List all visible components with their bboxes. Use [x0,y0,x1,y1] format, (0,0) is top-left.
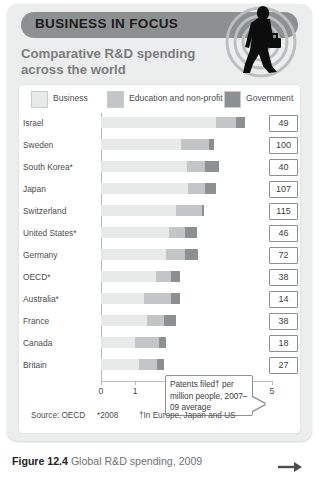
source-label: Source: OECD [31,411,85,420]
bar-segment-government [164,315,176,326]
bar-segment-business [101,161,187,172]
bar-segment-government [159,337,166,348]
bar-segment-education [187,161,206,172]
bar-segment-government [205,183,215,194]
bar-segment-business [101,205,176,216]
business-in-focus-card: BUSINESS IN FOCUS Comparative R&D spendi… [7,4,312,441]
chart-panel: Business Education and non-profit Govern… [19,85,300,433]
figure-number: Figure 12.4 [12,455,68,467]
patent-value-box: 38 [269,269,298,286]
bar-row [101,249,272,260]
bar-row [101,117,272,128]
banner-title: BUSINESS IN FOCUS [35,16,178,31]
patent-value-box: 40 [269,159,298,176]
category-label: Germany [23,250,99,260]
bar-segment-business [101,359,139,370]
legend-swatch-government [224,91,241,108]
category-label: Israel [23,118,99,128]
bar-segment-government [157,359,164,370]
category-label: Australia* [23,294,99,304]
bar-row [101,337,272,348]
patent-value-box: 72 [269,247,298,264]
patent-value-box: 38 [269,313,298,330]
bar-segment-education [216,117,237,128]
bar-segment-government [205,161,219,172]
patent-value-box: 107 [269,181,298,198]
bar-segment-business [101,117,216,128]
bar-segment-education [169,227,184,238]
x-axis-tick [135,381,136,385]
x-axis-tick-label: 0 [94,386,108,396]
bar-segment-business [101,249,166,260]
bar-segment-education [144,293,171,304]
bar-row [101,161,272,172]
bar-segment-education [176,205,202,216]
patent-value-box: 46 [269,225,298,242]
bar-segment-business [101,139,181,150]
bar-segment-government [171,293,180,304]
bar-segment-government [185,249,199,260]
category-label: Sweden [23,140,99,150]
bar-segment-education [156,271,171,282]
bar-segment-education [135,337,159,348]
x-axis-tick [101,381,102,385]
bar-segment-business [101,271,156,282]
category-label: Japan [23,184,99,194]
chart-subtitle: Comparative R&D spending across the worl… [21,46,236,78]
patent-value-box: 49 [269,115,298,132]
category-label: South Korea* [23,162,99,172]
patent-value-box: 14 [269,291,298,308]
legend-label-business: Business [53,93,88,103]
bar-segment-government [171,271,180,282]
x-axis-tick-label: 1 [128,386,142,396]
bar-row [101,359,272,370]
figure-caption-text: Global R&D spending, 2009 [68,455,202,467]
legend-label-education: Education and non-profit [129,93,223,103]
bar-segment-government [236,117,245,128]
bar-row [101,139,272,150]
bar-segment-education [147,315,164,326]
legend-label-government: Government [246,93,293,103]
x-axis-tick [272,381,273,385]
source-line: Source: OECD *2008 †In Europe, Japan and… [19,411,300,425]
callout-box: Patents filed† per million people, 2007–… [165,375,253,416]
category-label: United States* [23,228,99,238]
bar-row [101,315,272,326]
category-label: Britain [23,360,99,370]
bar-segment-business [101,227,169,238]
bar-row [101,293,272,304]
category-label: OECD* [23,272,99,282]
bar-segment-education [188,183,205,194]
next-arrow-icon[interactable] [277,459,303,477]
legend-swatch-education [107,91,124,108]
chart-legend: Business Education and non-profit Govern… [19,88,300,112]
bar-row [101,183,272,194]
bar-row [101,271,272,282]
bar-row [101,227,272,238]
bar-row [101,205,272,216]
bar-chart-plot: Israel49Sweden100South Korea*40Japan107S… [19,113,300,405]
bar-segment-government [202,205,204,216]
category-label: Switzerland [23,206,99,216]
patent-value-box: 27 [269,357,298,374]
patent-value-box: 18 [269,335,298,352]
figure-caption: Figure 12.4 Global R&D spending, 2009 [12,455,312,467]
category-label: Canada [23,338,99,348]
legend-swatch-business [31,91,48,108]
bar-segment-government [209,139,214,150]
category-label: France [23,316,99,326]
source-note-star: *2008 [97,411,118,420]
callout-tail [252,397,265,411]
patent-value-box: 115 [269,203,298,220]
bar-segment-education [181,139,208,150]
bar-segment-education [166,249,185,260]
bar-segment-business [101,293,144,304]
source-note-dagger: †In Europe, Japan and US [139,411,236,420]
x-axis-tick-label: 5 [265,386,279,396]
bar-segment-business [101,315,147,326]
bar-segment-business [101,337,135,348]
bar-segment-government [185,227,197,238]
bar-segment-business [101,183,188,194]
bar-segment-education [139,359,158,370]
patent-value-box: 100 [269,137,298,154]
